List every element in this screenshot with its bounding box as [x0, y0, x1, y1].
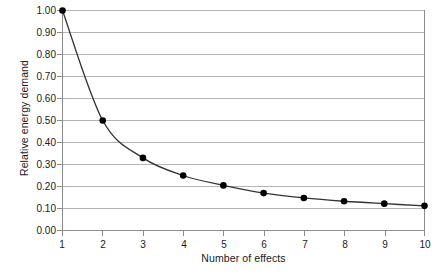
chart-figure: Relative energy demand 1.00 0.90 0.80 0.… — [0, 0, 438, 276]
x-tick-label: 9 — [370, 240, 400, 250]
x-tick-label: 2 — [88, 240, 118, 250]
x-axis-title: Number of effects — [62, 252, 425, 264]
caption-ghost — [40, 266, 420, 274]
x-tick-label: 8 — [330, 240, 360, 250]
x-tick-label: 3 — [128, 240, 158, 250]
x-tick-label: 5 — [209, 240, 239, 250]
x-tick-label: 6 — [249, 240, 279, 250]
x-tick-label: 10 — [410, 240, 438, 250]
x-tick-label: 7 — [290, 240, 320, 250]
x-tick-label: 1 — [47, 240, 77, 250]
x-axis-tick-labels: 1 2 3 4 5 6 7 8 9 10 — [0, 0, 438, 276]
x-tick-label: 4 — [169, 240, 199, 250]
